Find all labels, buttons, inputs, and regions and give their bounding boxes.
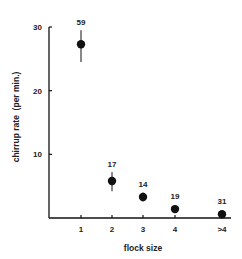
data-points: 5917141931 xyxy=(77,18,227,218)
sample-size-label: 31 xyxy=(218,197,227,206)
y-tick-label: 20 xyxy=(33,87,42,96)
x-axis-title: flock size xyxy=(124,243,163,253)
data-point: 17 xyxy=(108,160,117,191)
x-tick-label: 3 xyxy=(141,225,146,234)
data-point: 31 xyxy=(218,197,227,218)
point-marker xyxy=(139,193,147,201)
y-axis-title: chirrup rate (per min.) xyxy=(11,71,21,162)
point-marker xyxy=(171,205,179,213)
x-tick-label: >4 xyxy=(217,225,227,234)
data-point: 14 xyxy=(139,180,148,201)
x-tick-label: 2 xyxy=(110,225,115,234)
sample-size-label: 59 xyxy=(77,18,86,27)
data-point: 19 xyxy=(171,192,180,213)
point-marker xyxy=(77,40,85,48)
x-axis: 1234>4 xyxy=(49,215,231,234)
y-axis: 102030 xyxy=(33,23,52,218)
sample-size-label: 14 xyxy=(139,180,148,189)
x-tick-label: 4 xyxy=(173,225,178,234)
x-tick-label: 1 xyxy=(79,225,84,234)
point-marker xyxy=(108,177,116,185)
chirrup-rate-chart: 102030 1234>4 5917141931 flock size chir… xyxy=(0,0,242,259)
sample-size-label: 17 xyxy=(108,160,117,169)
point-marker xyxy=(218,210,226,218)
y-tick-label: 10 xyxy=(33,150,42,159)
data-point: 59 xyxy=(77,18,86,62)
y-tick-label: 30 xyxy=(33,23,42,32)
sample-size-label: 19 xyxy=(171,192,180,201)
